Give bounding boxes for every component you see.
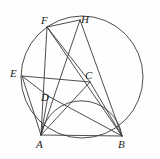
point-label-C: C [85, 70, 92, 81]
point-label-E: E [10, 68, 17, 79]
circumcircle [21, 16, 143, 138]
segment-AC [41, 82, 90, 135]
circle-group [21, 16, 143, 138]
point-label-F: F [41, 15, 48, 26]
segment-EC [22, 76, 90, 82]
point-label-H: H [81, 14, 89, 25]
geometry-figure: A B C D E F H [0, 0, 160, 159]
point-label-A: A [36, 139, 43, 150]
geometry-canvas [0, 0, 160, 159]
point-label-D: D [41, 92, 49, 103]
segment-BC [90, 82, 122, 136]
segment-FC [47, 27, 90, 82]
segment-AB [41, 135, 122, 136]
segment-AE [22, 76, 41, 135]
point-label-B: B [118, 139, 125, 150]
